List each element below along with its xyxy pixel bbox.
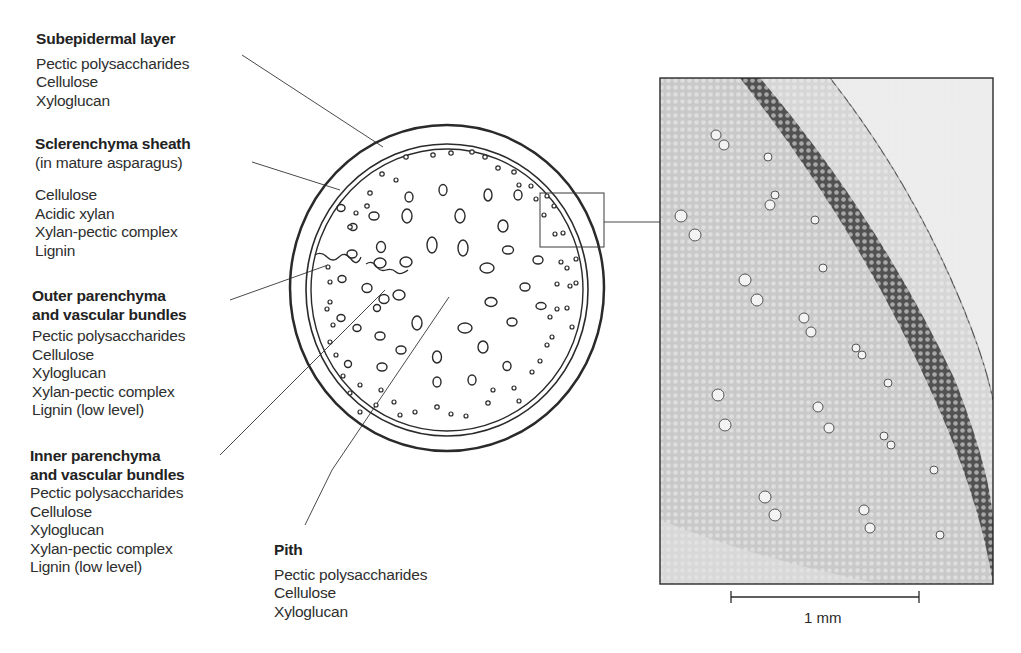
scale-bar-label: 1 mm	[804, 609, 842, 626]
peripheral-bundles	[325, 150, 578, 418]
leader-line-sclerenchyma	[252, 162, 340, 190]
leader-line-pith	[332, 297, 449, 470]
epidermis-ring	[290, 125, 604, 451]
crack-line	[315, 253, 408, 273]
leader-line-outer-parenchyma	[230, 265, 328, 300]
vascular-bundles	[337, 185, 546, 388]
scale-bar	[731, 591, 919, 603]
micrograph	[660, 78, 993, 584]
leader-line-subepidermal	[242, 55, 383, 147]
leader-line-inner-parenchyma	[220, 290, 385, 455]
stem-outline	[290, 125, 604, 451]
stem-cross-section-diagram	[0, 0, 1021, 653]
inset-box	[540, 193, 604, 247]
